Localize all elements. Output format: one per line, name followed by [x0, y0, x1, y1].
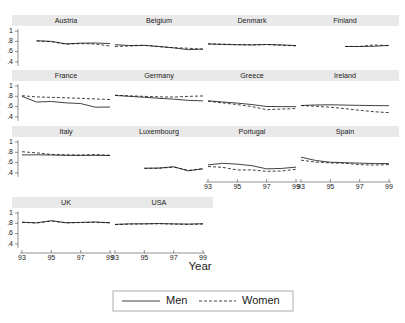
panel-germany: Germany: [105, 70, 213, 101]
x-tick-label: 93: [204, 183, 212, 190]
y-tick-label: .4: [7, 58, 13, 65]
y-tick-label: .8: [7, 92, 13, 99]
panel-finland: Finland: [291, 15, 399, 46]
x-tick-label: 97: [77, 254, 85, 261]
panel-title: Greece: [240, 71, 264, 80]
series-line-women: [208, 101, 296, 110]
legend-label-men: Men: [166, 294, 187, 306]
series-line-men: [115, 45, 203, 50]
panel-italy: Italy1.8.6.4: [7, 126, 120, 177]
panel-france: France1.8.6.4: [7, 70, 120, 121]
trellis-line-chart: Austria1.8.6.4BelgiumDenmarkFinlandFranc…: [0, 0, 405, 323]
panel-greece: Greece: [198, 70, 306, 110]
panel-spain: Spain93959799: [291, 126, 399, 190]
y-tick-label: 1: [9, 138, 13, 145]
panel-denmark: Denmark: [198, 15, 306, 46]
series-line-men: [22, 96, 110, 107]
series-line-men: [115, 224, 203, 225]
panel-title: Portugal: [239, 127, 266, 136]
panel-title: Belgium: [146, 16, 172, 25]
panel-uk: UK1.8.6.493959799: [7, 197, 120, 261]
chart-figure: Austria1.8.6.4BelgiumDenmarkFinlandFranc…: [0, 0, 405, 323]
x-tick-label: 97: [356, 183, 364, 190]
series-line-men: [144, 167, 203, 171]
y-tick-label: .8: [7, 148, 13, 155]
y-tick-label: 1: [9, 209, 13, 216]
series-line-women: [208, 167, 296, 172]
panel-luxembourg: Luxembourg: [105, 126, 213, 171]
y-tick-label: 1: [9, 82, 13, 89]
panel-ireland: Ireland: [291, 70, 399, 113]
x-tick-label: 97: [170, 254, 178, 261]
series-line-men: [22, 155, 110, 156]
panel-title: USA: [152, 198, 167, 207]
series-line-men: [115, 95, 203, 100]
panel-title: Denmark: [237, 16, 267, 25]
series-line-women: [22, 96, 110, 100]
legend-label-women: Women: [242, 294, 280, 306]
y-tick-label: .6: [7, 229, 13, 236]
y-tick-label: .4: [7, 113, 13, 120]
series-line-women: [301, 106, 389, 113]
panel-title: Germany: [144, 71, 174, 80]
x-tick-label: 95: [47, 254, 55, 261]
y-tick-label: .4: [7, 240, 13, 247]
x-tick-label: 93: [297, 183, 305, 190]
x-tick-label: 95: [326, 183, 334, 190]
x-tick-label: 99: [385, 183, 393, 190]
x-tick-label: 93: [111, 254, 119, 261]
y-tick-label: .8: [7, 37, 13, 44]
series-line-men: [208, 163, 296, 169]
y-tick-label: .8: [7, 219, 13, 226]
panel-title: France: [55, 71, 77, 80]
x-tick-label: 97: [263, 183, 271, 190]
panel-title: Ireland: [334, 71, 356, 80]
panel-title: Luxembourg: [139, 127, 179, 136]
panel-usa: USA93959799: [105, 197, 213, 261]
panel-austria: Austria1.8.6.4: [7, 15, 120, 66]
y-tick-label: .6: [7, 102, 13, 109]
panel-title: Spain: [336, 127, 354, 136]
panel-title: Finland: [333, 16, 357, 25]
x-tick-label: 95: [140, 254, 148, 261]
x-axis-title: Year: [188, 260, 211, 272]
panel-title: UK: [61, 198, 71, 207]
panel-title: Austria: [55, 16, 77, 25]
y-tick-label: 1: [9, 27, 13, 34]
x-tick-label: 93: [18, 254, 26, 261]
series-line-women: [144, 167, 203, 170]
panel-portugal: Portugal93959799: [198, 126, 306, 190]
panel-belgium: Belgium: [105, 15, 213, 50]
series-line-men: [208, 44, 296, 46]
series-line-men: [301, 105, 389, 106]
x-tick-label: 95: [233, 183, 241, 190]
y-tick-label: .6: [7, 47, 13, 54]
y-tick-label: .4: [7, 169, 13, 176]
y-tick-label: .6: [7, 158, 13, 165]
chart-legend: MenWomen: [113, 291, 293, 311]
series-line-men: [301, 157, 389, 163]
panel-title: Italy: [59, 127, 73, 136]
series-line-men: [208, 101, 296, 107]
